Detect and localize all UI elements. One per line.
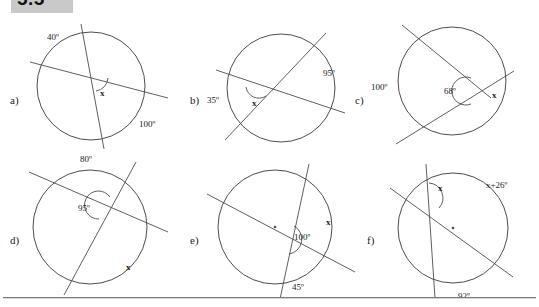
label-a-arc-lower-right: 100º <box>139 119 156 129</box>
label-b-unknown: x <box>252 98 257 108</box>
label-e-arc-bottom: 45º <box>292 282 304 292</box>
secant-d-2 <box>64 162 136 295</box>
secant-b-1 <box>225 33 326 140</box>
figure-e: 100º 45º x <box>200 155 375 305</box>
circle-b <box>227 34 335 142</box>
panel-letter-e: e) <box>190 234 199 246</box>
section-header-banner: 5.5 <box>11 0 73 13</box>
figure-a: 40º 100º x <box>20 14 190 154</box>
label-d-angle: 95º <box>78 203 90 213</box>
label-a-unknown: x <box>100 88 105 98</box>
angle-arc-b <box>246 87 266 98</box>
secant-a-2 <box>30 62 168 98</box>
circle-c <box>398 27 506 135</box>
circle-a <box>37 32 145 140</box>
label-e-unknown: x <box>326 217 331 227</box>
footer-divider <box>3 297 536 299</box>
center-dot-e <box>274 226 277 229</box>
figure-c: 100º 68º x <box>368 14 538 159</box>
panel-letter-a: a) <box>10 94 19 106</box>
section-number: 5.5 <box>17 0 45 10</box>
figure-d: 80º 95º x <box>20 155 190 305</box>
secant-a-1 <box>81 24 104 149</box>
secant-d-1 <box>29 172 168 232</box>
panel-letter-f: f) <box>367 234 374 246</box>
label-d-unknown: x <box>126 262 131 272</box>
label-f-unknown: x <box>438 183 443 193</box>
label-d-arc-top: 80º <box>80 154 92 164</box>
label-e-angle: 100º <box>294 232 311 242</box>
label-b-arc-left: 35º <box>207 95 219 105</box>
worksheet-page: 5.5 a) 40º 100º x b) 35º 95º x c) <box>0 0 539 307</box>
label-c-arc-left: 100º <box>371 82 388 92</box>
label-c-unknown: x <box>492 90 497 100</box>
label-b-arc-right: 95º <box>323 68 335 78</box>
label-f-arc-upper-right: x+26º <box>486 180 508 190</box>
figure-b: 35º 95º x <box>200 18 370 158</box>
label-a-arc-upper-left: 40º <box>47 32 59 42</box>
figure-f: x x+26º 92º <box>382 155 539 305</box>
panel-letter-b: b) <box>190 94 199 106</box>
label-f-arc-bottom: 92º <box>458 291 470 301</box>
secant-f-2 <box>390 188 513 277</box>
center-dot-f <box>452 227 455 230</box>
panel-letter-c: c) <box>355 94 364 106</box>
label-c-angle: 68º <box>444 86 456 96</box>
panel-letter-d: d) <box>10 234 19 246</box>
